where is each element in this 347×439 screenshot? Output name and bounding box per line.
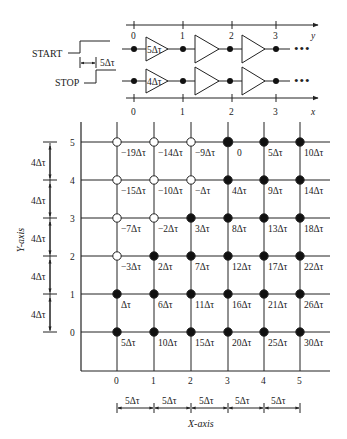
hollow-node-dot	[113, 214, 121, 222]
node-time-label: 12Δτ	[232, 262, 252, 272]
y-tick-0: 0	[70, 328, 75, 338]
filled-node-dot	[223, 137, 233, 147]
hollow-node-dot	[113, 176, 121, 184]
tap-dot	[131, 78, 137, 84]
node-time-label: 6Δτ	[158, 300, 173, 310]
buffer-icon	[242, 67, 265, 95]
filled-node-dot	[187, 252, 195, 260]
node-time-label: 18Δτ	[304, 224, 324, 234]
node-time-label: 8Δτ	[232, 224, 247, 234]
y-tick-4: 4	[70, 176, 75, 186]
filled-node-dot	[260, 252, 268, 260]
node-time-label: 5Δτ	[121, 338, 136, 348]
x-spacing-dimension: 5Δτ 5Δτ 5Δτ 5Δτ 5Δτ	[117, 396, 300, 413]
filled-node-dot	[260, 138, 268, 146]
node-time-label: 4Δτ	[232, 186, 247, 196]
hollow-node-dot	[187, 176, 195, 184]
start-signal-waveform	[68, 41, 110, 53]
node-time-label: −19Δτ	[121, 148, 146, 158]
svg-text:4Δτ: 4Δτ	[31, 310, 46, 320]
bottom-tick-1: 1	[180, 107, 185, 117]
hollow-node-dot	[150, 214, 158, 222]
node-time-label: 25Δτ	[268, 338, 288, 348]
node-time-label: 30Δτ	[304, 338, 324, 348]
svg-text:5Δτ: 5Δτ	[235, 396, 250, 406]
hollow-node-dot	[113, 252, 121, 260]
node-time-label: 7Δτ	[195, 262, 210, 272]
y-spacing-dimension: 4Δτ 4Δτ 4Δτ 4Δτ 4Δτ	[31, 142, 57, 332]
svg-text:5Δτ: 5Δτ	[162, 396, 177, 406]
filled-node-dot	[113, 328, 121, 336]
filled-node-dot	[150, 252, 158, 260]
node-time-label: 20Δτ	[232, 338, 252, 348]
node-time-label: −3Δτ	[121, 262, 141, 272]
node-time-label: 13Δτ	[268, 224, 288, 234]
node-time-label: 0	[237, 148, 242, 158]
svg-text:5Δτ: 5Δτ	[125, 396, 140, 406]
node-time-label: 9Δτ	[268, 186, 283, 196]
stop-buffer-delay: 4Δτ	[147, 77, 162, 87]
node-time-label: 10Δτ	[304, 148, 324, 158]
tap-dot	[227, 46, 233, 52]
y-tick-2: 2	[70, 252, 75, 262]
x-tick-0: 0	[114, 376, 119, 386]
svg-text:5Δτ: 5Δτ	[271, 396, 286, 406]
continuation-ellipsis: •••	[294, 41, 311, 56]
y-axis-title: Y-axis	[15, 228, 26, 252]
node-time-label: 26Δτ	[304, 300, 324, 310]
svg-text:4Δτ: 4Δτ	[31, 158, 46, 168]
node-time-label: 2Δτ	[158, 262, 173, 272]
buffer-icon	[195, 35, 219, 63]
tap-dot	[227, 78, 233, 84]
filled-node-dot	[187, 290, 195, 298]
node-time-label: −7Δτ	[121, 224, 141, 234]
bottom-tick-3: 3	[273, 107, 278, 117]
node-time-label: −Δτ	[195, 186, 210, 196]
top-tick-2: 2	[229, 31, 234, 41]
tap-dot	[180, 78, 186, 84]
filled-node-dot	[296, 214, 304, 222]
filled-node-dot	[224, 176, 232, 184]
start-label: START	[32, 48, 62, 59]
tap-dot	[273, 78, 279, 84]
filled-node-dot	[296, 328, 304, 336]
x-tick-5: 5	[297, 376, 302, 386]
x-tick-1: 1	[151, 376, 156, 386]
y-tick-1: 1	[70, 290, 75, 300]
filled-node-dot	[260, 328, 268, 336]
node-time-label: −10Δτ	[158, 186, 183, 196]
filled-node-dot	[187, 214, 195, 222]
vernier-tdc-diagram: START STOP 5Δτ 0 1 2 3 y 5Δτ •••	[0, 0, 347, 439]
filled-node-dot	[224, 214, 232, 222]
buffer-icon	[242, 35, 265, 63]
node-time-label: Δτ	[121, 300, 131, 310]
circuit: START STOP 5Δτ 0 1 2 3 y 5Δτ •••	[32, 21, 318, 117]
node-time-label: 17Δτ	[268, 262, 288, 272]
node-time-label: 22Δτ	[304, 262, 324, 272]
buffer-icon	[195, 67, 219, 95]
top-tick-1: 1	[180, 31, 185, 41]
filled-node-dot	[296, 138, 304, 146]
filled-node-dot	[260, 290, 268, 298]
tap-dot	[131, 46, 137, 52]
hollow-node-dot	[150, 176, 158, 184]
node-time-label: −9Δτ	[195, 148, 215, 158]
tap-dot	[273, 46, 279, 52]
node-time-label: 10Δτ	[158, 338, 178, 348]
y-tick-5: 5	[70, 138, 75, 148]
x-tick-2: 2	[188, 376, 193, 386]
tap-dot	[180, 46, 186, 52]
filled-node-dot	[260, 176, 268, 184]
node-time-label: 16Δτ	[232, 300, 252, 310]
svg-text:4Δτ: 4Δτ	[31, 272, 46, 282]
x-tick-4: 4	[261, 376, 266, 386]
filled-node-dot	[224, 328, 232, 336]
filled-node-dot	[296, 176, 304, 184]
node-time-label: 5Δτ	[268, 148, 283, 158]
filled-node-dot	[224, 252, 232, 260]
continuation-ellipsis: •••	[294, 73, 311, 88]
svg-text:4Δτ: 4Δτ	[31, 196, 46, 206]
bottom-axis-label: x	[310, 107, 316, 117]
timing-grid: −19Δτ−14Δτ−9Δτ05Δτ10Δτ−15Δτ−10Δτ−Δτ4Δτ9Δ…	[15, 122, 330, 429]
filled-node-dot	[113, 290, 121, 298]
